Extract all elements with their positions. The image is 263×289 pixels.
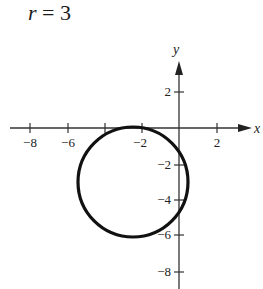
y-ticks: 2 −2 −4 −6 −8 xyxy=(157,84,184,279)
y-tick-label: −4 xyxy=(157,192,171,207)
y-axis-label: y xyxy=(171,42,180,57)
polar-graph: x y −8 −6 −2 2 2 −2 −4 −6 −8 xyxy=(0,0,263,289)
x-axis-label: x xyxy=(253,121,261,136)
y-tick-label: 2 xyxy=(165,84,172,99)
y-tick-label: −2 xyxy=(157,157,171,172)
y-tick-label: −8 xyxy=(157,264,171,279)
x-axis-arrow-icon xyxy=(238,124,252,132)
y-axis-arrow-icon xyxy=(175,61,183,75)
x-tick-label: −2 xyxy=(133,135,147,150)
x-tick-label: 2 xyxy=(214,135,221,150)
x-tick-label: −6 xyxy=(61,135,75,150)
x-tick-label: −8 xyxy=(23,135,37,150)
